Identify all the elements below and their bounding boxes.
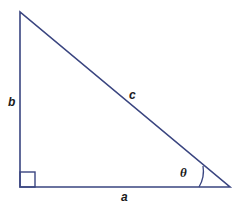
side-b-label: b — [8, 95, 15, 109]
right-angle-marker — [20, 172, 35, 187]
angle-arc — [199, 166, 203, 187]
side-a-label: a — [121, 190, 128, 204]
side-c-label: c — [129, 88, 136, 102]
angle-theta-label: θ — [180, 165, 187, 180]
triangle-outline — [20, 12, 230, 187]
right-triangle-diagram: b c θ a — [0, 0, 237, 205]
